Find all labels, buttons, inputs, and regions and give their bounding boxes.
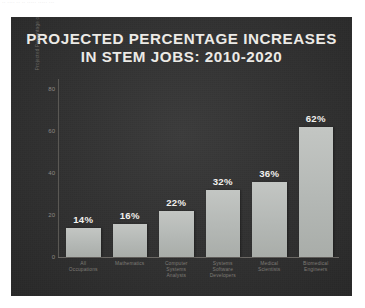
bar-value-label: 16% bbox=[107, 210, 154, 221]
truncated-header-text: ·· ···· ·· ·· ····· ····· ··· bbox=[2, 0, 54, 6]
bar-systems-software-developers[interactable] bbox=[206, 190, 241, 257]
bar-slot: 62%BiomedicalEngineers bbox=[293, 79, 340, 257]
bar-value-label: 36% bbox=[246, 168, 293, 179]
stem-jobs-infographic-panel: PROJECTED PERCENTAGE INCREASES IN STEM J… bbox=[11, 17, 352, 296]
category-label-line: Engineers bbox=[289, 267, 344, 273]
bar-series: 14%AllOccupations16%Mathematics22%Comput… bbox=[60, 79, 339, 257]
bar-value-label: 22% bbox=[153, 197, 200, 208]
bar-slot: 16%Mathematics bbox=[107, 79, 154, 257]
bar-biomedical-engineers[interactable] bbox=[299, 127, 334, 257]
category-label-line: Occupations bbox=[56, 267, 111, 273]
y-axis-tick-20: 20 bbox=[33, 212, 55, 218]
bar-value-label: 32% bbox=[200, 176, 247, 187]
y-axis-tick-40: 40 bbox=[33, 170, 55, 176]
y-axis-tick-0: 0 bbox=[33, 254, 55, 260]
chart-title-line-2: IN STEM JOBS: 2010-2020 bbox=[11, 48, 352, 66]
bar-mathematics[interactable] bbox=[113, 224, 148, 258]
bar-slot: 22%ComputerSystemsAnalysts bbox=[153, 79, 200, 257]
bar-slot: 14%AllOccupations bbox=[60, 79, 107, 257]
bar-chart-plot-area: Projected Percentage of Increase 2010-20… bbox=[29, 79, 339, 279]
bar-all-occupations[interactable] bbox=[66, 228, 101, 257]
x-axis-baseline bbox=[58, 257, 339, 258]
x-axis-category-label: BiomedicalEngineers bbox=[289, 261, 344, 273]
category-label-line: Developers bbox=[196, 273, 251, 279]
bar-slot: 32%SystemsSoftwareDevelopers bbox=[200, 79, 247, 257]
y-axis-line bbox=[58, 79, 59, 257]
bar-slot: 36%MedicalScientists bbox=[246, 79, 293, 257]
y-axis-tick-80: 80 bbox=[33, 86, 55, 92]
chart-title: PROJECTED PERCENTAGE INCREASES IN STEM J… bbox=[11, 30, 352, 65]
bar-value-label: 14% bbox=[60, 214, 107, 225]
bar-computer-systems-analysts[interactable] bbox=[159, 211, 194, 257]
bar-medical-scientists[interactable] bbox=[252, 182, 287, 257]
chart-title-line-1-text: PROJECTED PERCENTAGE INCREASES bbox=[26, 30, 337, 47]
y-axis-tick-60: 60 bbox=[33, 128, 55, 134]
truncated-page-header: ·· ···· ·· ·· ····· ····· ··· bbox=[0, 0, 365, 7]
bar-value-label: 62% bbox=[293, 113, 340, 124]
y-axis-tick-labels: 806040200 bbox=[29, 79, 55, 257]
